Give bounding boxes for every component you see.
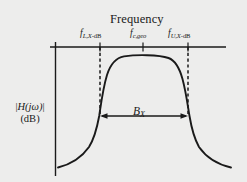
label-upper-cutoff-frequency: fU,X-dB [168, 29, 190, 39]
y-axis-transfer-function: H(jω) [18, 101, 43, 112]
bandpass-filter-response-figure: Frequency fL,X-dB fc,geo fU,X-dB |H(jω)|… [0, 0, 247, 182]
label-lower-cutoff-frequency: fL,X-dB [80, 29, 101, 39]
upper-cutoff-subscript-italic: U,X [171, 32, 181, 39]
lower-cutoff-subscript-italic: L,X [83, 32, 92, 39]
y-axis-bar-right: | [42, 101, 44, 112]
center-frequency-subscript-italic: c,geo [133, 32, 147, 39]
upper-cutoff-subscript-upright: -dB [181, 32, 191, 39]
bandwidth-arrow-head-left [100, 113, 108, 119]
label-bandwidth: BX [133, 106, 145, 118]
y-axis-label: |H(jω)| (dB) [8, 101, 52, 126]
lower-cutoff-subscript-upright: -dB [92, 32, 102, 39]
bandwidth-subscript: X [140, 110, 145, 119]
x-axis-title: Frequency [110, 13, 164, 26]
label-center-frequency: fc,geo [130, 29, 146, 39]
bandwidth-arrow-head-right [181, 113, 189, 119]
y-axis-label-magnitude-line: |H(jω)| [8, 101, 52, 113]
figure-graphics [0, 0, 247, 182]
bandwidth-symbol: B [133, 105, 140, 117]
y-axis-label-units-line: (dB) [8, 113, 52, 125]
